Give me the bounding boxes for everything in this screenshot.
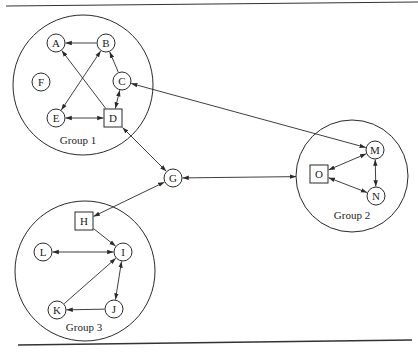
node-label: D — [109, 112, 117, 124]
node-h: H — [75, 212, 93, 230]
node-a: A — [47, 34, 65, 52]
node-label: J — [112, 303, 117, 315]
node-label: O — [315, 168, 323, 180]
group-label-3: Group 3 — [66, 321, 103, 333]
edge-h-i — [94, 229, 116, 247]
node-label: I — [121, 246, 125, 258]
edge-d-c — [115, 90, 119, 108]
node-i: I — [114, 243, 132, 261]
node-c: C — [113, 72, 131, 90]
network-diagram: Group 1Group 2Group 3 ABFCEDGMONHLIKJ — [0, 0, 418, 355]
node-l: L — [34, 243, 52, 261]
edge-c-m — [131, 83, 366, 147]
edge-o-m — [329, 154, 367, 170]
edge-o-n — [329, 178, 368, 193]
edge-k-i — [64, 258, 116, 303]
node-label: G — [169, 172, 177, 184]
node-f: F — [32, 73, 50, 91]
top-rule — [6, 2, 418, 6]
edge-m-n — [375, 159, 376, 186]
edge-h-g — [94, 182, 165, 216]
edge-j-k — [66, 309, 104, 310]
node-label: B — [102, 37, 109, 49]
nodes-layer: ABFCEDGMONHLIKJ — [32, 34, 385, 319]
edge-d-g — [123, 128, 167, 172]
node-label: N — [372, 190, 380, 202]
edge-c-b — [110, 52, 119, 72]
edge-g-g2 — [182, 177, 296, 178]
node-k: K — [48, 301, 66, 319]
node-o: O — [310, 165, 328, 183]
node-g: G — [164, 169, 182, 187]
node-label: C — [118, 75, 125, 87]
node-d: D — [104, 109, 122, 127]
node-label: A — [52, 37, 60, 49]
node-label: E — [53, 112, 60, 124]
node-j: J — [105, 300, 123, 318]
node-n: N — [367, 187, 385, 205]
node-e: E — [47, 109, 65, 127]
node-label: H — [80, 215, 88, 227]
group-label-2: Group 2 — [334, 209, 370, 221]
node-m: M — [366, 141, 384, 159]
node-b: B — [97, 34, 115, 52]
edge-e-b — [61, 51, 100, 110]
node-label: L — [40, 246, 47, 258]
edge-i-j — [115, 261, 121, 299]
node-label: F — [38, 76, 44, 88]
node-label: M — [370, 144, 380, 156]
group-label-1: Group 1 — [60, 134, 96, 146]
node-label: K — [53, 304, 61, 316]
